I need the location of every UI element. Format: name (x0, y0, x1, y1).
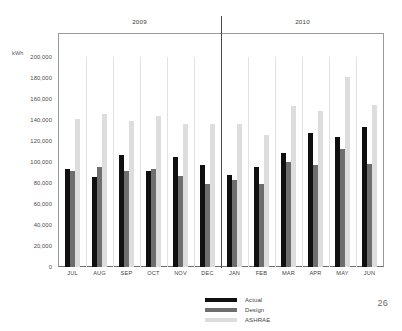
legend-item-ashrae[interactable]: ASHRAE (205, 315, 325, 324)
bar-group-bars (113, 57, 140, 267)
x-axis-label-dec: DEC (194, 270, 221, 276)
x-axis-label-apr: APR (302, 270, 329, 276)
bar-group (59, 57, 86, 267)
y-axis-tick-label: 140,000 (30, 117, 52, 123)
year-header-2009: 2009 (58, 18, 221, 25)
legend-swatch-actual (205, 298, 237, 302)
legend-item-actual[interactable]: Actual (205, 295, 325, 304)
y-axis-tick-label: 100,000 (30, 159, 52, 165)
x-axis-category-labels: JULAUGSEPOCTNOVDECJANFEBMARAPRMAYJUN (59, 269, 383, 283)
legend-swatch-ashrae (205, 318, 237, 322)
y-axis-tick-label: 80,000 (34, 180, 52, 186)
bar-group-bars (86, 57, 113, 267)
x-axis-label-feb: FEB (248, 270, 275, 276)
bar-group-bars (221, 57, 248, 267)
year-divider-line (221, 16, 222, 268)
bar-ashrae[interactable] (210, 124, 215, 267)
bar-group-bars (302, 57, 329, 267)
bar-group (275, 57, 302, 267)
bar-ashrae[interactable] (345, 77, 350, 267)
page-number: 26 (377, 298, 388, 308)
bar-group (221, 57, 248, 267)
y-axis-tick-label: 40,000 (34, 222, 52, 228)
bar-group (248, 57, 275, 267)
bar-ashrae[interactable] (264, 135, 269, 267)
y-axis-tick-labels: 200,000180,000160,000140,000120,000100,0… (0, 0, 58, 331)
bar-group (113, 57, 140, 267)
legend-label-design: Design (245, 307, 264, 313)
bar-ashrae[interactable] (75, 119, 80, 267)
y-axis-tick-label: 60,000 (34, 201, 52, 207)
x-axis-label-oct: OCT (140, 270, 167, 276)
bar-group-bars (140, 57, 167, 267)
legend-swatch-design (205, 308, 237, 312)
x-axis-label-aug: AUG (86, 270, 113, 276)
bar-ashrae[interactable] (237, 124, 242, 267)
bar-ashrae[interactable] (102, 114, 107, 267)
bar-group-bars (167, 57, 194, 267)
bar-group (140, 57, 167, 267)
bar-group-bars (248, 57, 275, 267)
x-axis-label-may: MAY (329, 270, 356, 276)
y-axis-tick-label: 180,000 (30, 75, 52, 81)
y-axis-tick-label: 200,000 (30, 54, 52, 60)
bar-group (356, 57, 383, 267)
y-axis-tick-label: 120,000 (30, 138, 52, 144)
legend-label-ashrae: ASHRAE (245, 317, 270, 323)
bar-group-bars (329, 57, 356, 267)
y-axis-tick-label: 0 (49, 264, 52, 270)
bar-group (329, 57, 356, 267)
bar-ashrae[interactable] (318, 111, 323, 267)
bar-ashrae[interactable] (372, 105, 377, 267)
x-axis-label-jan: JAN (221, 270, 248, 276)
x-axis-label-jul: JUL (59, 270, 86, 276)
x-axis-label-sep: SEP (113, 270, 140, 276)
bar-group (302, 57, 329, 267)
x-axis-label-mar: MAR (275, 270, 302, 276)
bar-group (167, 57, 194, 267)
bar-ashrae[interactable] (129, 121, 134, 267)
bar-ashrae[interactable] (183, 124, 188, 267)
bar-ashrae[interactable] (156, 116, 161, 267)
y-axis-tick-label: 160,000 (30, 96, 52, 102)
x-axis-label-jun: JUN (356, 270, 383, 276)
legend-label-actual: Actual (245, 297, 262, 303)
bar-ashrae[interactable] (291, 106, 296, 267)
legend-item-design[interactable]: Design (205, 305, 325, 314)
bar-group (86, 57, 113, 267)
bar-group-bars (194, 57, 221, 267)
chart-legend: ActualDesignASHRAE (205, 295, 325, 325)
chart-page: 2009 2010 kWh 200,000180,000160,000140,0… (0, 0, 402, 331)
year-header-2010: 2010 (221, 18, 384, 25)
x-axis-label-nov: NOV (167, 270, 194, 276)
bar-group-bars (59, 57, 86, 267)
bar-group-bars (275, 57, 302, 267)
bar-group (194, 57, 221, 267)
bar-group-bars (356, 57, 383, 267)
y-axis-tick-label: 20,000 (34, 243, 52, 249)
